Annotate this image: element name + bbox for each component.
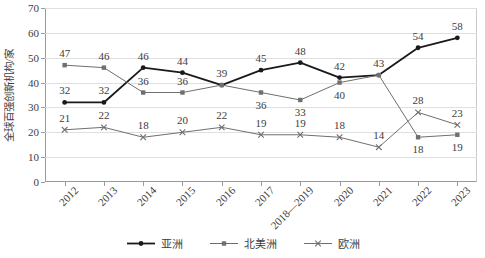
series-欧洲 — [62, 110, 460, 150]
x-axis-label-3: 2015 — [174, 184, 198, 208]
y-axis-tick-labels: 010203040506070 — [16, 8, 42, 182]
y-axis-tick-30: 30 — [28, 102, 39, 113]
y-axis-tick-40: 40 — [28, 77, 39, 88]
x-axis-tick-labels: 2012201320142015201620172018—20192020202… — [45, 182, 477, 228]
y-axis-tick-20: 20 — [28, 127, 39, 138]
y-axis-tick-10: 10 — [28, 152, 39, 163]
legend-label: 北美洲 — [244, 235, 277, 251]
y-axis-tick-70: 70 — [28, 3, 39, 14]
plot-area: 3232464439454842435458474636363633401819… — [45, 8, 477, 182]
y-axis-title-text: 全球百强创新机构/家 — [1, 49, 16, 142]
legend-item-亚洲[interactable]: 亚洲 — [126, 235, 183, 251]
chart-legend: 亚洲北美洲欧洲 — [0, 232, 485, 254]
line-chart: 全球百强创新机构/家 010203040506070 3232464439454… — [0, 0, 485, 258]
y-axis-title: 全球百强创新机构/家 — [0, 0, 16, 190]
legend-item-北美洲[interactable]: 北美洲 — [209, 235, 277, 251]
y-axis-tick-0: 0 — [34, 177, 40, 188]
x-axis-label-2: 2014 — [135, 184, 159, 208]
x-axis-label-8: 2021 — [370, 184, 394, 208]
legend-label: 亚洲 — [161, 235, 183, 251]
legend-label: 欧洲 — [338, 235, 360, 251]
legend-marker-icon — [126, 238, 156, 249]
series-lines — [45, 8, 477, 182]
x-axis-label-9: 2022 — [410, 184, 434, 208]
x-axis-label-1: 2013 — [95, 184, 119, 208]
y-axis-tick-60: 60 — [28, 27, 39, 38]
x-axis-label-5: 2017 — [252, 184, 276, 208]
legend-marker-icon — [209, 238, 239, 249]
x-axis-label-10: 2023 — [449, 184, 473, 208]
x-axis-label-7: 2020 — [331, 184, 355, 208]
x-axis-label-4: 2016 — [213, 184, 237, 208]
x-axis-label-0: 2012 — [56, 184, 80, 208]
legend-marker-icon — [303, 238, 333, 249]
legend-item-欧洲[interactable]: 欧洲 — [303, 235, 360, 251]
y-axis-tick-50: 50 — [28, 52, 39, 63]
